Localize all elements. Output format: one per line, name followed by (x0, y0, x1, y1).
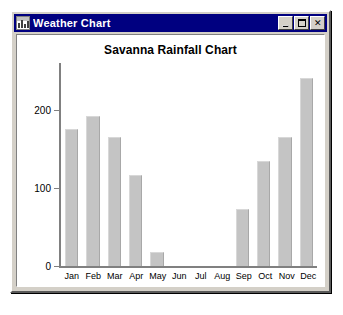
x-axis-label: Dec (298, 271, 320, 281)
bar-slot (189, 63, 210, 266)
bar-may[interactable] (150, 252, 163, 266)
bar-slot (232, 63, 253, 266)
window-titlebar[interactable]: Weather Chart ✕ (14, 14, 327, 32)
x-axis-line (59, 266, 317, 268)
bar-sep[interactable] (236, 209, 249, 266)
x-axis-label: Aug (212, 271, 234, 281)
bar-nov[interactable] (278, 137, 291, 266)
bar-oct[interactable] (257, 161, 270, 266)
y-axis-label: 200 (34, 104, 51, 115)
x-axis-labels: JanFebMarAprMayJunJulAugSepOctNovDec (61, 271, 319, 281)
x-axis-label: Oct (255, 271, 277, 281)
bar-slot (82, 63, 103, 266)
bar-slot (274, 63, 295, 266)
bar-mar[interactable] (108, 137, 121, 266)
bar-slot (104, 63, 125, 266)
bar-slot (296, 63, 317, 266)
x-axis-label: Jun (169, 271, 191, 281)
bar-slot (168, 63, 189, 266)
minimize-button[interactable] (278, 16, 293, 30)
maximize-button[interactable] (294, 16, 309, 30)
x-axis-label: Feb (83, 271, 105, 281)
bar-slot (146, 63, 167, 266)
x-axis-label: Sep (233, 271, 255, 281)
bar-slot (253, 63, 274, 266)
bar-jan[interactable] (65, 129, 78, 266)
y-axis-label: 0 (45, 261, 51, 272)
bar-slot (210, 63, 231, 266)
x-axis-label: Nov (276, 271, 298, 281)
window-controls: ✕ (278, 16, 325, 30)
x-axis-label: Mar (104, 271, 126, 281)
x-axis-label: Jan (61, 271, 83, 281)
x-axis-label: Jul (190, 271, 212, 281)
y-axis-tick (54, 188, 59, 189)
bar-apr[interactable] (129, 175, 142, 266)
close-icon: ✕ (311, 17, 324, 29)
bar-dec[interactable] (300, 78, 313, 266)
chart-title: Savanna Rainfall Chart (17, 43, 324, 57)
y-axis-label: 100 (34, 182, 51, 193)
x-axis-label: Apr (126, 271, 148, 281)
bar-feb[interactable] (86, 116, 99, 266)
close-button[interactable]: ✕ (310, 16, 325, 30)
bar-series (61, 63, 317, 266)
application-window: Weather Chart ✕ Savanna Rainfall Chart 0… (10, 10, 331, 293)
chart-canvas: Savanna Rainfall Chart 0100200 JanFebMar… (16, 34, 325, 287)
window-title: Weather Chart (33, 17, 278, 29)
plot-area: 0100200 (59, 63, 317, 268)
bar-slot (125, 63, 146, 266)
bar-slot (61, 63, 82, 266)
y-axis-tick (54, 110, 59, 111)
y-axis-tick (54, 266, 59, 267)
chart-app-icon (16, 16, 30, 30)
x-axis-label: May (147, 271, 169, 281)
